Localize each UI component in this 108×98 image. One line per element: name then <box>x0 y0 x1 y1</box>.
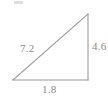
base-side-length-label: 1.8 <box>42 84 56 95</box>
hypotenuse-length-label: 7.2 <box>20 43 34 54</box>
vertical-side-length-label: 4.6 <box>92 41 106 52</box>
triangle-figure: 7.2 4.6 1.8 <box>0 0 108 98</box>
